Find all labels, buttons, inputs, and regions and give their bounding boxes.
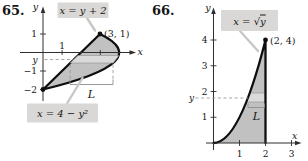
equation-box-bottom-65: x = 4 − y² bbox=[27, 104, 98, 123]
equation-box-top-65: x = y + 2 bbox=[58, 3, 109, 19]
point-label-3-1: (3, 1) bbox=[104, 28, 130, 39]
equation-label-line: x = y + 2 bbox=[59, 5, 106, 16]
x-axis-arrow-icon bbox=[130, 50, 137, 55]
y-tick-label-3: 3 bbox=[202, 61, 208, 71]
x-axis-label-66: x bbox=[292, 130, 298, 141]
strip-y-label-66: y bbox=[188, 93, 195, 103]
x-tick-label-1: 1 bbox=[59, 41, 65, 51]
x-tick-label-2: 2 bbox=[263, 149, 269, 159]
x-tick-label-3: 3 bbox=[289, 149, 295, 159]
y-tick-label-1: 1 bbox=[31, 29, 37, 39]
point-dot-0-neg2 bbox=[41, 87, 46, 92]
figure-66: x = √y 66. y x 4 3 2 1 1 2 3 y L (2, 4) bbox=[150, 0, 308, 161]
x-axis-arrow-icon bbox=[295, 141, 302, 146]
region-66 bbox=[214, 40, 266, 143]
y-tick-label-2: 2 bbox=[202, 87, 208, 97]
y-axis-label-65: y bbox=[32, 1, 39, 12]
length-label-65: L bbox=[87, 88, 95, 101]
y-axis-66 bbox=[211, 8, 216, 151]
figure-65: x = y + 2 x = 4 − y² 65. y x 1 1 −1 −2 y… bbox=[0, 0, 150, 161]
y-tick-label-4: 4 bbox=[202, 35, 208, 45]
x-axis-label-65: x bbox=[138, 46, 144, 57]
equation-radicand: y bbox=[259, 16, 266, 27]
y-axis-arrow-icon bbox=[41, 7, 46, 14]
exercise-number-66: 66. bbox=[152, 3, 175, 18]
leader-line-66 bbox=[240, 31, 258, 51]
equation-label-parabola: x = 4 − y² bbox=[37, 108, 88, 119]
point-label-2-4: (2, 4) bbox=[270, 35, 296, 46]
point-dot-3-1 bbox=[98, 32, 103, 37]
equation-prefix: x = √ bbox=[233, 16, 260, 27]
y-tick-label-neg1: −1 bbox=[24, 66, 37, 76]
equation-box-66: x = √y bbox=[221, 10, 278, 31]
equation-label-sqrt: x = √y bbox=[233, 16, 266, 27]
representative-strip-65 bbox=[70, 56, 119, 64]
point-dot-2-4 bbox=[263, 38, 268, 43]
leader-line-top-65 bbox=[87, 18, 95, 31]
strip-y-label-65: y bbox=[31, 55, 38, 65]
y-tick-label-1: 1 bbox=[202, 112, 208, 122]
exercise-number-65: 65. bbox=[2, 3, 25, 18]
length-label-66: L bbox=[252, 110, 260, 123]
x-tick-label-1: 1 bbox=[237, 149, 243, 159]
y-axis-label-66: y bbox=[204, 2, 211, 13]
y-axis-arrow-icon bbox=[211, 8, 216, 15]
y-tick-label-neg2: −2 bbox=[24, 85, 37, 95]
